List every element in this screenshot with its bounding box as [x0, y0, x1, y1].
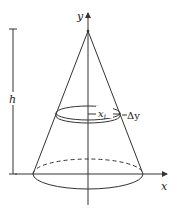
- apex-point: [87, 30, 90, 33]
- thickness-label: Δy: [127, 110, 140, 121]
- height-label: h: [9, 93, 16, 106]
- x-axis-label: x: [161, 180, 168, 193]
- y-axis-label: y: [76, 10, 84, 23]
- cone-right-edge: [88, 31, 143, 174]
- height-dimension: h: [8, 29, 18, 174]
- cone-left-edge: [33, 31, 88, 174]
- cone-diagram: y x h xi Δy: [0, 0, 177, 211]
- slice-disk: xi: [56, 106, 127, 123]
